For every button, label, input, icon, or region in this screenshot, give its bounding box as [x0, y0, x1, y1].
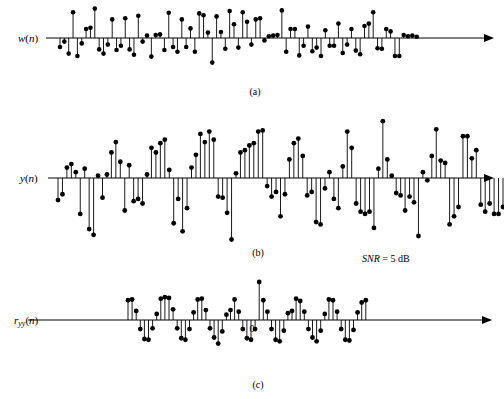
stem-marker	[167, 167, 172, 172]
stem-marker	[358, 52, 363, 57]
stem-marker	[201, 13, 206, 18]
stem-marker	[56, 198, 61, 203]
stem-marker	[375, 46, 380, 51]
stem-marker	[238, 150, 243, 155]
stem-marker	[310, 49, 315, 54]
stem-marker	[465, 134, 470, 139]
stem-marker	[393, 54, 398, 59]
stem-marker	[260, 128, 265, 133]
stem-marker	[220, 195, 225, 200]
stem-marker	[412, 200, 417, 205]
stem-marker	[154, 150, 159, 155]
stem-marker	[110, 17, 115, 22]
stem-marker	[131, 199, 136, 204]
stem-marker	[97, 47, 102, 52]
stem-marker	[297, 53, 302, 58]
stem-marker	[318, 222, 323, 227]
stem-marker	[87, 227, 92, 232]
stem-marker	[384, 27, 389, 32]
stem-marker	[251, 141, 256, 146]
stem-marker	[136, 196, 141, 201]
stem-marker	[371, 10, 376, 15]
stem-marker	[351, 327, 356, 332]
panel-b-caption: (b)	[252, 247, 264, 259]
stem-marker	[306, 327, 311, 332]
panel-b-stems	[56, 119, 504, 242]
stem-marker	[429, 154, 434, 159]
stem-marker	[331, 298, 336, 303]
stem-marker	[58, 45, 63, 50]
stem-marker	[194, 152, 199, 157]
stem-marker	[240, 10, 245, 15]
stem-marker	[284, 50, 289, 55]
stem-marker	[401, 33, 406, 38]
stem-marker	[319, 54, 324, 59]
stem-marker	[327, 297, 332, 302]
stem-marker	[93, 6, 98, 11]
stem-marker	[198, 132, 203, 137]
panel-c-y-axis-label: ryy(n)	[14, 314, 39, 328]
stem-marker	[261, 298, 266, 303]
stem-marker	[249, 42, 254, 47]
stem-marker	[162, 48, 167, 53]
stem-marker	[191, 310, 196, 315]
stem-marker	[318, 328, 323, 333]
stem-marker	[286, 311, 291, 316]
stem-marker	[347, 338, 352, 343]
stem-marker	[188, 26, 193, 31]
signal-figure: w(n) (a) y(n) (b) SNR = 5 dB ryy(n)	[0, 0, 504, 399]
stem-marker	[287, 157, 292, 162]
stem-marker	[275, 33, 280, 38]
stem-marker	[71, 10, 76, 15]
stem-marker	[452, 214, 457, 219]
stem-marker	[336, 21, 341, 26]
stem-marker	[385, 157, 390, 162]
stem-marker	[339, 327, 344, 332]
stem-marker	[349, 27, 354, 32]
stem-marker	[197, 11, 202, 16]
stem-marker	[280, 8, 285, 13]
stem-marker	[487, 201, 492, 206]
stem-marker	[109, 150, 114, 155]
stem-marker	[225, 210, 230, 215]
stem-marker	[398, 193, 403, 198]
stem-marker	[180, 229, 185, 234]
stem-marker	[336, 206, 341, 211]
stem-marker	[363, 298, 368, 303]
stem-marker	[138, 327, 143, 332]
stem-marker	[79, 41, 84, 46]
stem-marker	[158, 141, 163, 146]
stem-marker	[388, 29, 393, 34]
stem-marker	[171, 45, 176, 50]
stem-marker	[376, 166, 381, 171]
stem-marker	[216, 341, 221, 346]
stem-marker	[119, 44, 124, 49]
stem-marker	[290, 308, 295, 313]
stem-marker	[236, 45, 241, 50]
stem-marker	[187, 327, 192, 332]
stem-marker	[447, 222, 452, 227]
stem-marker	[149, 54, 154, 59]
stem-marker	[140, 201, 145, 206]
stem-marker	[223, 47, 228, 52]
stem-marker	[394, 191, 399, 196]
stem-marker	[162, 137, 167, 142]
stem-marker	[380, 119, 385, 124]
stem-marker	[302, 309, 307, 314]
stem-marker	[88, 26, 93, 31]
stem-marker	[175, 326, 180, 331]
stem-marker	[281, 328, 286, 333]
stem-marker	[132, 53, 137, 58]
stem-marker	[343, 337, 348, 342]
stem-marker	[184, 45, 189, 50]
stem-marker	[136, 14, 141, 19]
stem-marker	[114, 48, 119, 53]
stem-marker	[300, 154, 305, 159]
stem-marker	[416, 234, 421, 239]
stem-marker	[257, 280, 262, 285]
stem-marker	[130, 297, 135, 302]
stem-marker	[367, 21, 372, 26]
stem-marker	[354, 48, 359, 53]
stem-marker	[216, 194, 221, 199]
stem-marker	[456, 205, 461, 210]
